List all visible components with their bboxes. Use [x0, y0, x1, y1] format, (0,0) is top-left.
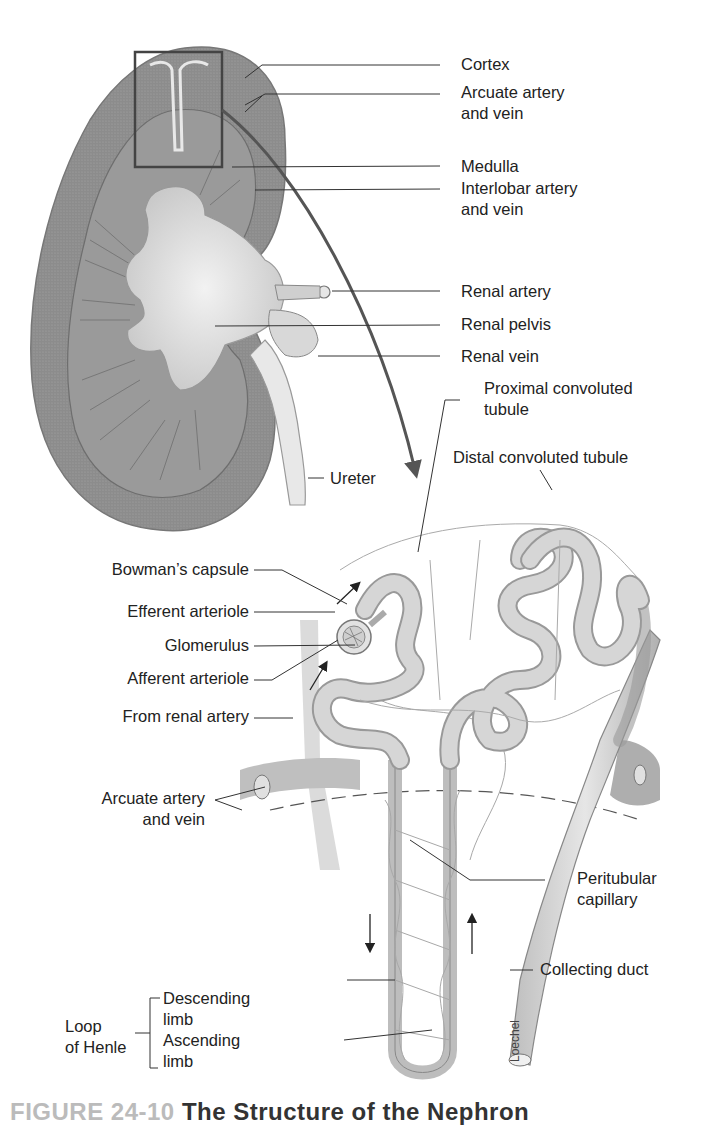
label-line: Arcuate artery — [461, 83, 565, 101]
label-cortex: Cortex — [461, 54, 510, 75]
label-renal-pelvis: Renal pelvis — [461, 314, 551, 335]
label-interlobar-artery-vein: Interlobar artery and vein — [461, 178, 577, 220]
label-line: limb — [163, 1052, 193, 1070]
label-line: limb — [163, 1010, 193, 1028]
label-ascending-limb: Ascending limb — [163, 1030, 240, 1072]
label-bowmans-capsule: Bowman’s capsule — [112, 559, 249, 580]
label-line: and vein — [461, 200, 523, 218]
label-line: Interlobar artery — [461, 179, 577, 197]
label-peritubular-capillary: Peritubular capillary — [577, 868, 657, 910]
label-line: Loop — [65, 1017, 102, 1035]
label-line: Peritubular — [577, 869, 657, 887]
label-line: tubule — [484, 400, 529, 418]
label-distal-convoluted-tubule: Distal convoluted tubule — [453, 447, 628, 468]
kidney-illustration — [31, 47, 415, 531]
label-glomerulus: Glomerulus — [165, 635, 249, 656]
label-line: and vein — [461, 104, 523, 122]
label-renal-artery: Renal artery — [461, 281, 551, 302]
caption-number: FIGURE 24-10 — [10, 1098, 175, 1125]
label-collecting-duct: Collecting duct — [540, 959, 648, 980]
label-line: Descending — [163, 989, 250, 1007]
label-from-renal-artery: From renal artery — [122, 706, 249, 727]
label-medulla: Medulla — [461, 156, 519, 177]
label-line: and vein — [143, 810, 205, 828]
label-arcuate-artery-vein-kidney: Arcuate artery and vein — [461, 82, 565, 124]
caption-title: The Structure of the Nephron — [182, 1098, 529, 1125]
label-efferent-arteriole: Efferent arteriole — [127, 601, 249, 622]
label-proximal-convoluted-tubule: Proximal convoluted tubule — [484, 378, 633, 420]
nephron-illustration — [240, 524, 660, 1073]
label-descending-limb: Descending limb — [163, 988, 250, 1030]
label-arcuate-artery-vein-nephron: Arcuate artery and vein — [101, 788, 205, 830]
figure-caption: FIGURE 24-10 The Structure of the Nephro… — [10, 1098, 529, 1126]
label-afferent-arteriole: Afferent arteriole — [127, 668, 249, 689]
label-loop-of-henle: Loop of Henle — [65, 1016, 126, 1058]
label-line: Proximal convoluted — [484, 379, 633, 397]
label-line: of Henle — [65, 1038, 126, 1056]
label-line: Arcuate artery — [101, 789, 205, 807]
artist-signature: Loechel — [508, 1020, 522, 1062]
label-ureter: Ureter — [330, 468, 376, 489]
label-line: capillary — [577, 890, 638, 908]
label-renal-vein: Renal vein — [461, 346, 539, 367]
label-line: Ascending — [163, 1031, 240, 1049]
